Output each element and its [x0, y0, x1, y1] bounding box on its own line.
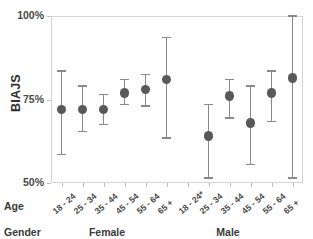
x-tick-mark	[188, 183, 189, 187]
error-bar	[292, 16, 293, 178]
y-tick-label-75: 75%	[0, 93, 44, 105]
error-bar-cap-upper	[141, 74, 150, 75]
x-tick-mark	[251, 183, 252, 187]
chart-container: BIAJS 50%75%100% 18 - 2425 - 3435 - 4445…	[0, 0, 313, 239]
plot-area	[51, 16, 303, 183]
data-point-marker	[120, 88, 130, 98]
y-tick-mark	[47, 16, 51, 17]
x-tick-mark	[209, 183, 210, 187]
x-tick-mark	[272, 183, 273, 187]
error-bar	[166, 38, 167, 138]
error-bar-cap-lower	[204, 177, 213, 178]
error-bar-cap-upper	[225, 79, 234, 80]
x-tick-mark	[62, 183, 63, 187]
error-bar-cap-upper	[246, 85, 255, 86]
group-label-female: Female	[77, 226, 137, 238]
x-tick-mark	[83, 183, 84, 187]
group-label-male: Male	[198, 226, 258, 238]
x-tick-mark	[125, 183, 126, 187]
error-bar	[208, 105, 209, 178]
error-bar-cap-upper	[57, 70, 66, 71]
error-bar-cap-lower	[225, 117, 234, 118]
error-bar-cap-lower	[267, 121, 276, 122]
age-tick-label: 18 - 24	[50, 191, 77, 216]
error-bar-cap-upper	[204, 104, 213, 105]
error-bar-cap-upper	[267, 70, 276, 71]
y-tick-label-50: 50%	[0, 176, 44, 188]
y-tick-mark	[47, 100, 51, 101]
gender-row-label: Gender	[4, 226, 41, 238]
error-bar-cap-lower	[120, 104, 129, 105]
error-bar-cap-upper	[99, 94, 108, 95]
error-bar-cap-lower	[141, 105, 150, 106]
x-tick-mark	[167, 183, 168, 187]
error-bar-cap-lower	[57, 154, 66, 155]
error-bar-cap-lower	[99, 124, 108, 125]
x-tick-mark	[293, 183, 294, 187]
error-bar-cap-lower	[78, 131, 87, 132]
error-bar-cap-upper	[120, 79, 129, 80]
data-point-marker	[288, 73, 298, 83]
error-bar-cap-upper	[288, 15, 297, 16]
error-bar-cap-upper	[162, 37, 171, 38]
error-bar-cap-upper	[78, 85, 87, 86]
data-point-marker	[246, 118, 256, 128]
error-bar-cap-lower	[162, 137, 171, 138]
x-tick-mark	[104, 183, 105, 187]
x-tick-mark	[230, 183, 231, 187]
data-point-marker	[267, 88, 277, 98]
data-point-marker	[225, 91, 235, 101]
age-row-label: Age	[4, 200, 24, 212]
x-tick-mark	[146, 183, 147, 187]
error-bar-cap-lower	[288, 177, 297, 178]
y-tick-mark	[47, 183, 51, 184]
y-tick-label-100: 100%	[0, 9, 44, 21]
error-bar-cap-lower	[246, 164, 255, 165]
